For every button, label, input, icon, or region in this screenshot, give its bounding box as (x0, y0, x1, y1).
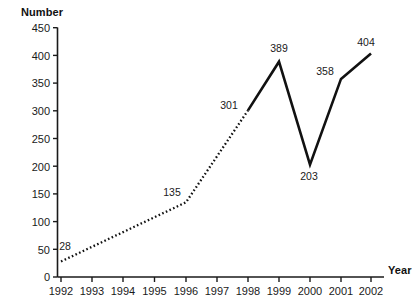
y-tick-label: 150 (18, 188, 50, 200)
y-tick-label: 250 (18, 133, 50, 145)
data-point-label-2000: 203 (297, 170, 321, 182)
y-tick-label: 350 (18, 77, 50, 89)
data-point-label-1998: 301 (217, 99, 241, 111)
y-tick-label: 400 (18, 50, 50, 62)
x-tick-label: 2000 (293, 285, 327, 297)
x-tick-label: 1992 (44, 285, 78, 297)
y-tick-label: 200 (18, 161, 50, 173)
series-solid-segment (248, 54, 371, 165)
y-tick-label: 450 (18, 22, 50, 34)
y-tick-label: 100 (18, 216, 50, 228)
series-dotted-segment (61, 110, 248, 261)
x-tick-label: 1997 (200, 285, 234, 297)
data-point-label-2002: 404 (354, 36, 378, 48)
x-tick-label: 1993 (75, 285, 109, 297)
data-point-label-1999: 389 (267, 42, 291, 54)
data-point-label-2001: 358 (313, 65, 337, 77)
x-tick-label: 1995 (138, 285, 172, 297)
x-tick-label: 1998 (231, 285, 265, 297)
x-tick-label: 1999 (262, 285, 296, 297)
line-chart: Number Year (0, 0, 418, 305)
data-point-label-1992: 28 (56, 240, 74, 252)
y-tick-label: 0 (18, 271, 50, 283)
x-tick-label: 1996 (169, 285, 203, 297)
y-tick-label: 300 (18, 105, 50, 117)
x-tick-label: 2002 (354, 285, 388, 297)
data-point-label-1996: 135 (160, 186, 184, 198)
y-tick-label: 50 (18, 244, 50, 256)
x-tick-label: 2001 (324, 285, 358, 297)
x-tick-label: 1994 (106, 285, 140, 297)
